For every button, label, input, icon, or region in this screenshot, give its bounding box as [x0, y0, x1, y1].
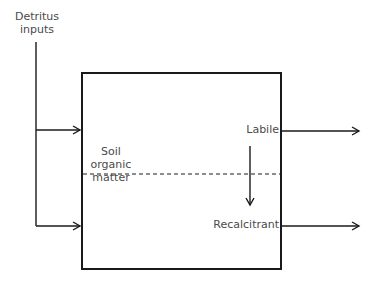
detritus-inputs-line1: Detritus: [2, 10, 72, 23]
som-line3: matter: [83, 171, 139, 184]
diagram-canvas: [0, 0, 376, 285]
labile-pool-label: Labile: [229, 123, 279, 136]
detritus-inputs-line2: inputs: [2, 23, 72, 36]
soil-organic-matter-label: Soil organic matter: [83, 145, 139, 184]
recalcitrant-pool-label: Recalcitrant: [195, 218, 279, 231]
som-line2: organic: [83, 158, 139, 171]
som-line1: Soil: [83, 145, 139, 158]
detritus-inputs-label: Detritus inputs: [2, 10, 72, 36]
